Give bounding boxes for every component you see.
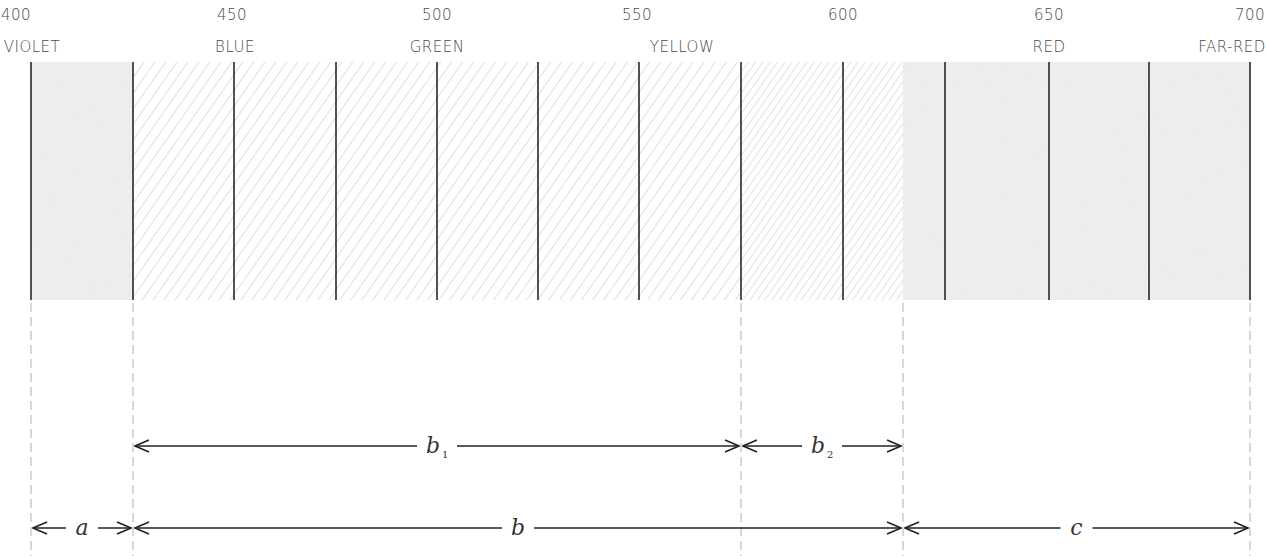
range-label: a: [75, 515, 88, 540]
range-c: c: [905, 515, 1248, 540]
range-b1: b1: [135, 433, 739, 460]
range-label: b: [811, 433, 825, 458]
range-label: c: [1070, 515, 1082, 540]
range-label: b: [426, 433, 440, 458]
stipple-texture: [903, 62, 1250, 300]
spectrum-band: [31, 62, 1250, 300]
dashed-guides: [31, 303, 1250, 556]
range-arrows: b1b2abc: [33, 433, 1248, 540]
spectrum-diagram: b1b2abc: [0, 0, 1266, 556]
range-subscript: 2: [827, 449, 833, 460]
hatched-dense-region: [741, 62, 903, 300]
range-subscript: 1: [442, 449, 448, 460]
range-b: b: [135, 515, 901, 540]
stipple-texture: [31, 62, 133, 300]
range-b2: b2: [743, 433, 901, 460]
range-label: b: [511, 515, 525, 540]
range-a: a: [33, 515, 131, 540]
